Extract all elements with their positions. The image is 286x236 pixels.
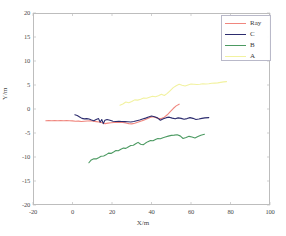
y-tick-label: -10 [10,153,30,160]
legend-label: B [250,42,255,49]
y-tick-label: 10 [10,57,30,64]
x-tick-label: 80 [219,208,243,215]
y-tick-label: -20 [10,201,30,208]
y-tick-label: -5 [10,129,30,136]
y-tick-label: 20 [10,9,30,16]
y-tick-label: 15 [10,33,30,40]
legend-item: C [225,29,267,40]
legend-label: A [250,53,255,60]
y-tick-label: 5 [10,81,30,88]
legend-label: Ray [250,20,261,27]
legend-item: Ray [225,18,267,29]
chart-legend: RayCBA [221,15,271,61]
x-tick-label: 40 [140,208,164,215]
chart-figure: 20151050-5-10-15-20 -20020406080100 Y/m … [0,0,286,236]
y-tick-label: -15 [10,177,30,184]
legend-color-swatch [225,34,246,35]
y-tick-label: 0 [10,105,30,112]
x-tick-label: 0 [61,208,85,215]
x-axis-title: X/m [0,219,286,227]
x-tick-label: -20 [21,208,45,215]
legend-color-swatch [225,56,246,57]
series-line-b [89,134,205,163]
x-tick-label: 60 [179,208,203,215]
x-tick-label: 20 [100,208,124,215]
x-tick-label: 100 [258,208,282,215]
legend-label: C [250,31,255,38]
series-line-c [75,115,209,124]
legend-color-swatch [225,45,246,46]
y-axis-title: Y/m [1,88,9,100]
legend-item: B [225,40,267,51]
legend-item: A [225,51,267,62]
series-paths [46,82,227,163]
series-line-a [120,82,227,106]
legend-color-swatch [225,23,246,24]
